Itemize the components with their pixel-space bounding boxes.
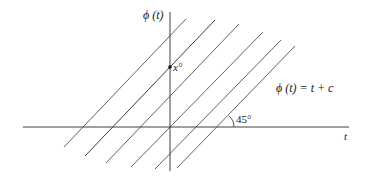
- solution-lines: [64, 19, 295, 169]
- angle-label: 45°: [236, 114, 251, 125]
- solution-line: [177, 46, 295, 168]
- solution-line: [64, 19, 186, 147]
- equation-label: ϕ (t) = t + c: [276, 82, 333, 94]
- angle-arc: [229, 116, 234, 127]
- point-label: x°: [173, 62, 182, 73]
- solution-line: [155, 40, 281, 169]
- solution-line: [106, 24, 239, 163]
- x-axis-label: t: [344, 131, 347, 142]
- initial-point-marker: [168, 65, 172, 69]
- solution-line: [85, 20, 215, 156]
- y-axis-label: ϕ (t): [143, 9, 164, 21]
